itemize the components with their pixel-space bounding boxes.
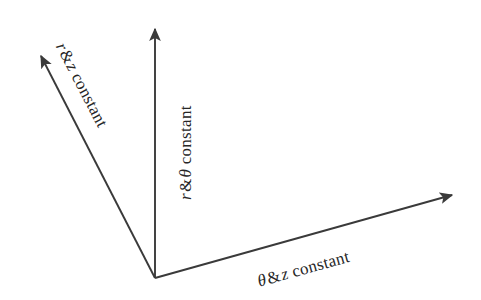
axis-label-symbol-r: r <box>176 193 195 200</box>
axis-label-symbol-theta: θ <box>176 169 195 178</box>
coordinate-axes-figure: r&z constant r&θ constant θ&z constant <box>0 0 481 300</box>
axis-label-word-constant: constant <box>176 105 195 164</box>
axis-label-ampersand: & <box>176 178 195 194</box>
upper-left-axis-line <box>41 56 155 278</box>
axis-label-r-and-theta-constant: r&θ constant <box>176 105 196 200</box>
